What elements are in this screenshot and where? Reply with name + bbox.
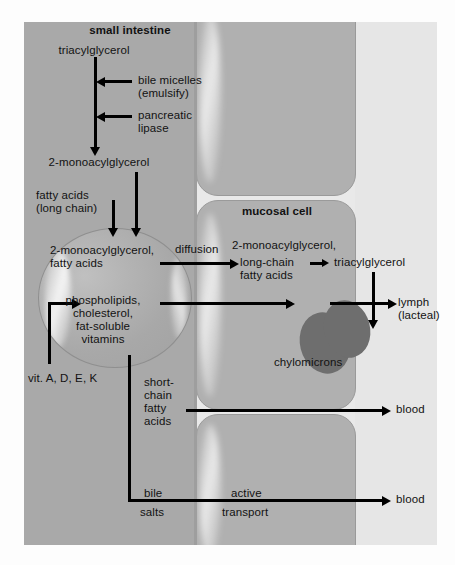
brush-border-boundary [194, 22, 197, 545]
label-salts: salts [140, 506, 164, 519]
label-cell-fattyacids: fatty acids [240, 269, 293, 282]
arrow-fattyacids-into-micelle-head [108, 228, 118, 237]
label-fatty: fatty [144, 402, 166, 415]
arrow-lipids-to-chylomicron-head [286, 299, 295, 309]
cell-highlight [199, 424, 221, 545]
arrow-mag-into-micelle-head [131, 228, 141, 237]
interstitial-region [355, 22, 437, 545]
label-acids: acids [144, 415, 171, 428]
label-triacylglycerol-lumen: triacylglycerol [46, 44, 142, 57]
micelle-highlight-2 [171, 257, 187, 340]
arrow-pancreatic-lipase-shaft [104, 115, 132, 118]
arrow-bilesalts-to-blood-head [382, 496, 391, 506]
label-long-chain: (long chain) [36, 202, 97, 215]
label-micelle-fatty-acids: fatty acids [50, 257, 103, 270]
label-bile-micelles: bile micelles [138, 74, 202, 87]
arrow-diffusion-shaft [160, 262, 232, 265]
label-mucosal-cell: mucosal cell [222, 205, 332, 218]
label-fatty-acids: fatty acids [36, 189, 89, 202]
label-lymph: lymph [398, 296, 429, 309]
label-phospholipids: phospholipids, [48, 294, 158, 307]
label-vit-adek: vit. A, D, E, K [28, 372, 97, 385]
label-blood-bottom: blood [396, 493, 425, 506]
mucosal-cell-upper [196, 22, 356, 196]
mucosal-cell-lower [196, 414, 356, 545]
arrow-bilesalts-shaft-vertical [128, 355, 131, 502]
label-short: short- [144, 376, 174, 389]
label-small-intestine: small intestine [60, 24, 200, 37]
diagram-canvas: small intestine triacylglycerol bile mic… [0, 0, 455, 565]
arrow-tag-hydrolysis-head [90, 147, 100, 156]
arrow-lipids-to-chylomicron-shaft [160, 302, 292, 305]
label-cell-longchain: long-chain [240, 256, 294, 269]
cell-highlight [199, 22, 221, 183]
label-lipase: lipase [138, 122, 169, 135]
label-fat-soluble: fat-soluble [48, 320, 158, 333]
label-cholesterol: cholesterol, [48, 307, 158, 320]
label-diffusion: diffusion [175, 243, 219, 256]
arrow-chylomicron-to-lymph-shaft [330, 302, 392, 305]
arrow-mag-into-micelle-shaft [135, 172, 138, 230]
label-triacylglycerol-cell: triacylglycerol [334, 256, 405, 269]
arrow-bile-micelles-head [96, 77, 105, 87]
arrow-diffusion-head [230, 259, 239, 269]
label-chylomicrons: chylomicrons [274, 356, 342, 369]
label-pancreatic: pancreatic [138, 109, 192, 122]
arrow-bile-micelles-shaft [104, 80, 132, 83]
arrow-tag-to-chylomicron-shaft [372, 272, 375, 322]
arrow-tag-to-chylomicron-head [368, 320, 378, 329]
label-2-monoacylglycerol-lumen: 2-monoacylglycerol [40, 156, 158, 169]
arrow-resynthesis-head [322, 259, 329, 267]
arrow-tag-hydrolysis-shaft [94, 57, 97, 149]
label-emulsify: (emulsify) [138, 87, 189, 100]
label-cell-mag: 2-monoacylglycerol, [232, 239, 336, 252]
diagram-panel [24, 22, 437, 545]
arrow-scfa-to-blood-head [382, 406, 391, 416]
arrow-scfa-to-blood-shaft [186, 409, 386, 412]
label-lacteal: (lacteal) [398, 309, 440, 322]
label-vitamins: vitamins [48, 333, 158, 346]
label-bile: bile [144, 487, 162, 500]
arrow-chylomicron-to-lymph-head [388, 299, 397, 309]
label-blood-top: blood [396, 403, 425, 416]
label-active: active [231, 487, 262, 500]
arrow-pancreatic-lipase-head [96, 112, 105, 122]
label-chain: chain [144, 389, 172, 402]
label-transport: transport [222, 506, 268, 519]
label-micelle-mag: 2-monoacylglycerol, [50, 244, 154, 257]
arrow-fattyacids-into-micelle-shaft [112, 200, 115, 230]
